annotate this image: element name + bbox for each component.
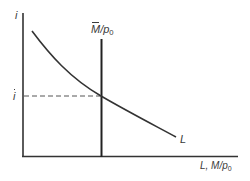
equilibrium-rate-text: i [13,91,15,102]
money-supply-label-rest: /p [100,23,109,35]
money-supply-label-sub: 0 [109,28,113,37]
x-axis-label: L, M/p0 [200,161,232,171]
curve-label: L [180,134,186,145]
y-axis-label: i [15,10,17,21]
x-axis-label-main: L, M/p [200,160,228,171]
liquidity-preference-curve [32,31,176,137]
x-axis-label-sub: 0 [228,165,232,172]
money-supply-label: M/p0 [91,24,114,35]
money-supply-label-main: M [91,24,100,35]
equilibrium-rate-label: i [13,91,15,102]
money-market-diagram [0,0,250,181]
